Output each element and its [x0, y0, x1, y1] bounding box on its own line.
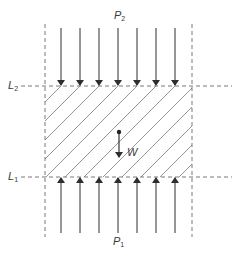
label-l1: L1: [8, 171, 18, 183]
bottom-pressure-arrows: [61, 178, 175, 233]
label-p2-sub: 2: [121, 15, 125, 22]
diagram-svg: [0, 0, 244, 255]
top-pressure-arrows: [61, 28, 175, 85]
label-l1-sub: 1: [14, 176, 18, 183]
label-weight: W: [127, 147, 137, 158]
hatched-region: [0, 86, 244, 177]
label-p1-sub: 1: [120, 241, 124, 248]
label-p2: P2: [114, 10, 125, 22]
label-l2: L2: [8, 80, 18, 92]
fluid-element-diagram: P2 L2 L1 P1 W: [0, 0, 244, 255]
dashed-boundaries: [21, 24, 232, 237]
label-p1: P1: [113, 236, 124, 248]
label-l2-sub: 2: [14, 85, 18, 92]
